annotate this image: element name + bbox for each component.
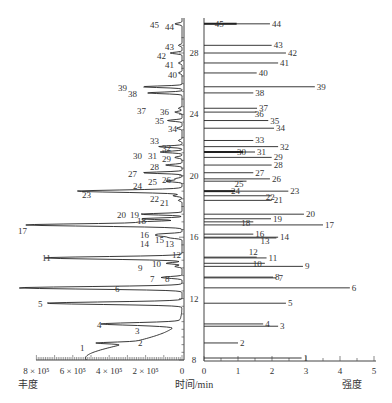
left-peak-label: 20 — [117, 210, 127, 220]
left-peak-label: 39 — [118, 83, 128, 93]
left-peak-label: 1 — [80, 343, 85, 353]
right-tick-label: 1 — [236, 366, 241, 376]
left-tick-label: 2 × 10⁵ — [132, 366, 158, 376]
time-tick-label: 12 — [190, 294, 199, 304]
time-tick-label: 28 — [190, 48, 200, 58]
right-peak-label: 17 — [325, 220, 335, 230]
right-peak-label: 26 — [272, 174, 282, 184]
left-peak-label: 31 — [148, 151, 157, 161]
left-peak-label: 2 — [138, 338, 143, 348]
right-tick-label: 0 — [202, 366, 207, 376]
left-tick-label: 4 × 10⁵ — [96, 366, 122, 376]
left-peak-label: 21 — [160, 198, 169, 208]
left-peak-label: 34 — [168, 124, 178, 134]
chart-canvas: 8 × 10⁵6 × 10⁵4 × 10⁵2 × 10⁵012345678910… — [0, 0, 392, 403]
right-peak-label: 9 — [305, 261, 310, 271]
right-peak-label: 3 — [280, 321, 285, 331]
right-peak-label: 22 — [266, 192, 275, 202]
right-peak-label: 35 — [270, 116, 280, 126]
left-peak-label: 41 — [165, 60, 174, 70]
left-peak-label: 11 — [42, 253, 51, 263]
left-peak-label: 40 — [168, 70, 178, 80]
right-peak-label: 14 — [280, 232, 290, 242]
left-peak-label: 29 — [162, 154, 172, 164]
left-peak-label: 16 — [140, 230, 150, 240]
right-peak-label: 39 — [317, 82, 327, 92]
left-peak-label: 35 — [155, 116, 165, 126]
right-peak-label: 18 — [241, 218, 251, 228]
time-tick-label: 24 — [190, 109, 200, 119]
left-peak-label: 6 — [115, 284, 120, 294]
right-axis-label: 强度 — [342, 378, 362, 390]
left-tick-label: 8 × 10⁵ — [23, 366, 49, 376]
right-peak-label: 20 — [306, 209, 316, 219]
time-tick-label: 16 — [190, 232, 200, 242]
left-peak-label: 3 — [135, 326, 140, 336]
right-tick-label: 4 — [338, 366, 343, 376]
left-peak-label: 12 — [172, 250, 181, 260]
left-peak-label: 15 — [155, 235, 165, 245]
left-peak-label: 25 — [148, 177, 158, 187]
left-peak-label: 32 — [162, 143, 171, 153]
right-peak-label: 12 — [249, 247, 258, 257]
right-peak-label: 16 — [255, 229, 264, 239]
right-peak-label: 4 — [265, 319, 270, 329]
right-peak-label: 27 — [255, 168, 264, 178]
left-peak-label: 17 — [18, 226, 28, 236]
right-peak-label: 40 — [259, 68, 269, 78]
left-peak-label: 26 — [162, 175, 172, 185]
left-axis-label: 丰度 — [18, 378, 38, 390]
right-peak-label: 29 — [274, 152, 284, 162]
left-peak-label: 42 — [157, 51, 166, 61]
right-peak-label: 33 — [255, 135, 264, 145]
time-tick-label: 8 — [192, 355, 197, 365]
left-peak-label: 45 — [150, 20, 160, 30]
chromatogram-trace — [19, 18, 182, 360]
right-intensity-panel: 0123451234567891011121314161718192021222… — [202, 18, 377, 376]
left-peak-label: 37 — [137, 106, 147, 116]
right-peak-label: 38 — [255, 88, 264, 98]
left-tick-label: 6 × 10⁵ — [60, 366, 86, 376]
time-tick-label: 20 — [190, 171, 200, 181]
left-chromatogram-panel: 8 × 10⁵6 × 10⁵4 × 10⁵2 × 10⁵012345678910… — [18, 18, 185, 376]
right-tick-label: 2 — [270, 366, 275, 376]
right-peak-label: 32 — [280, 142, 289, 152]
right-peak-label: 23 — [290, 186, 300, 196]
left-peak-label: 24 — [133, 181, 143, 191]
right-tick-label: 3 — [304, 366, 309, 376]
left-peak-label: 5 — [38, 299, 43, 309]
right-peak-label: 2 — [240, 338, 245, 348]
left-peak-label: 43 — [165, 42, 175, 52]
left-peak-label: 27 — [128, 169, 138, 179]
right-peak-label: 21 — [274, 195, 283, 205]
right-peak-label: 11 — [269, 253, 278, 263]
left-peak-label: 4 — [97, 320, 102, 330]
right-tick-label: 5 — [372, 366, 377, 376]
left-peak-label: 19 — [130, 210, 140, 220]
right-peak-label: 6 — [352, 283, 357, 293]
left-peak-label: 22 — [150, 194, 159, 204]
left-peak-label: 36 — [160, 107, 170, 117]
left-peak-label: 10 — [152, 259, 162, 269]
right-peak-label: 31 — [257, 147, 266, 157]
left-peak-label: 38 — [128, 89, 138, 99]
left-peak-label: 44 — [165, 22, 175, 32]
right-peak-label: 41 — [280, 58, 289, 68]
right-peak-label: 43 — [274, 40, 284, 50]
right-peak-label: 19 — [273, 214, 283, 224]
left-tick-label: 0 — [180, 366, 185, 376]
left-peak-label: 23 — [82, 190, 92, 200]
right-peak-label: 37 — [259, 103, 269, 113]
right-peak-label: 1 — [304, 353, 309, 363]
left-peak-label: 13 — [165, 239, 175, 249]
right-peak-label: 42 — [288, 48, 297, 58]
left-peak-label: 8 — [165, 274, 170, 284]
left-peak-label: 7 — [150, 274, 155, 284]
left-peak-label: 14 — [140, 239, 150, 249]
right-peak-label: 5 — [288, 298, 293, 308]
mirrored-chromatogram-chart: 8 × 10⁵6 × 10⁵4 × 10⁵2 × 10⁵012345678910… — [0, 0, 392, 403]
right-peak-label: 25 — [235, 179, 245, 189]
right-peak-label: 10 — [253, 259, 262, 269]
right-peak-label: 45 — [215, 19, 225, 29]
left-peak-label: 9 — [138, 263, 143, 273]
